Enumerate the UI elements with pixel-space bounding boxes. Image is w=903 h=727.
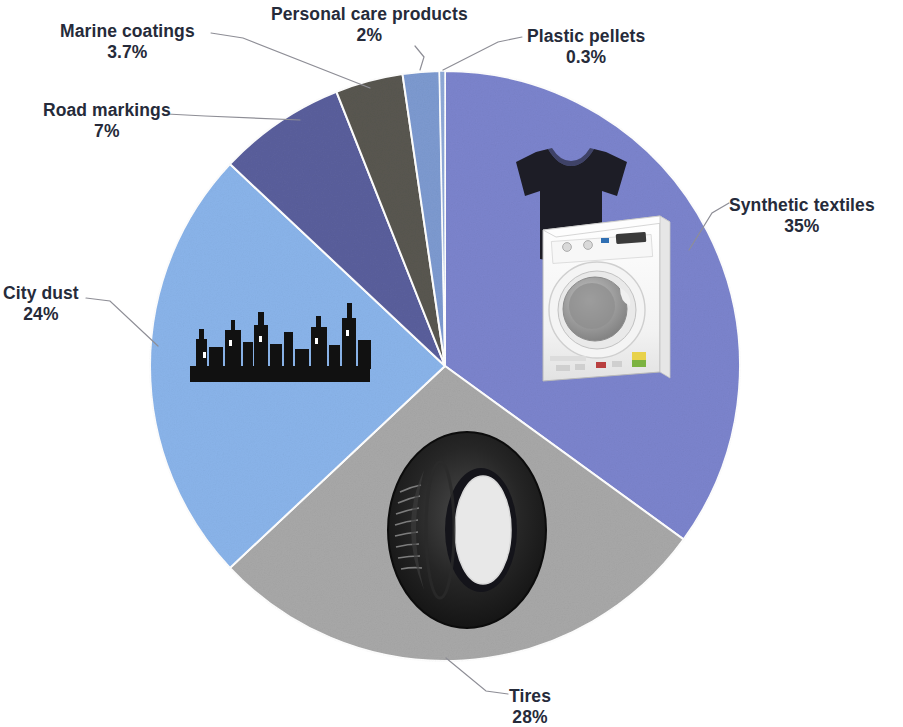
- pie-chart-figure: Personal care products 2% Marine coating…: [0, 0, 903, 727]
- pie-label-personal-care-products: Personal care products 2%: [271, 4, 468, 45]
- pie-label-marine-coatings-text: Marine coatings: [60, 21, 195, 41]
- pie-label-plastic-pellets-value: 0.3%: [527, 47, 645, 68]
- pie-label-tires-text: Tires: [509, 686, 551, 706]
- pie-label-personal-care-products-value: 2%: [271, 25, 468, 46]
- leader-line-tires: [446, 658, 508, 694]
- pie-label-marine-coatings-value: 3.7%: [60, 42, 195, 63]
- pie-label-tires-value: 28%: [509, 707, 551, 727]
- washing-machine-icon: [543, 216, 670, 381]
- leader-line-personal-care-products: [415, 46, 424, 70]
- pie-label-synthetic-textiles: Synthetic textiles 35%: [729, 195, 875, 236]
- pie-label-road-markings: Road markings 7%: [43, 100, 171, 141]
- leader-line-road-markings: [167, 114, 300, 120]
- pie-label-city-dust: City dust 24%: [3, 283, 79, 324]
- pie-label-tires: Tires 28%: [509, 686, 551, 727]
- pie-label-road-markings-value: 7%: [43, 121, 171, 142]
- pie-label-personal-care-products-text: Personal care products: [271, 4, 468, 24]
- pie-label-synthetic-textiles-value: 35%: [729, 216, 875, 237]
- pie-label-road-markings-text: Road markings: [43, 100, 171, 120]
- pie-label-synthetic-textiles-text: Synthetic textiles: [729, 195, 875, 215]
- tire-icon: [388, 432, 546, 628]
- pie-label-plastic-pellets-text: Plastic pellets: [527, 26, 645, 46]
- pie-label-city-dust-value: 24%: [3, 304, 79, 325]
- pie-label-plastic-pellets: Plastic pellets 0.3%: [527, 26, 645, 67]
- pie-label-city-dust-text: City dust: [3, 283, 79, 303]
- leader-line-city-dust: [86, 298, 158, 346]
- pie-label-marine-coatings: Marine coatings 3.7%: [60, 21, 195, 62]
